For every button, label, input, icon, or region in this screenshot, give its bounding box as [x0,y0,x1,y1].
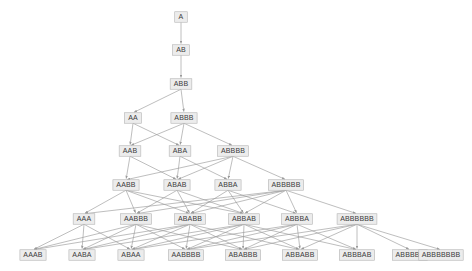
graph-edge [181,89,184,111]
graph-node[interactable]: ABBBA [282,214,313,225]
graph-node-label: ABBBB [221,147,245,154]
graph-node-label: ABAB [167,181,186,188]
graph-edge [127,156,233,179]
graph-node-label: ABBBAB [343,251,372,258]
graph-edge [134,89,181,112]
graph-edge [137,190,286,213]
graph-edge [187,224,297,249]
graph-node-label: A [179,13,184,20]
graph-node-label: ABA [173,147,188,154]
graph-edge [85,190,286,213]
graph-node-label: AAB [123,147,138,154]
graph-edge [126,156,130,178]
graph-edge [357,224,440,249]
graph-node[interactable]: ABBBBB [268,180,303,191]
graph-canvas: AABABBAAABBBAABABAABBBBAABBABABABBAABBBB… [0,0,472,271]
graph-node[interactable]: ABBABB [282,250,317,261]
graph-node[interactable]: AABBB [121,214,152,225]
graph-edge [82,224,84,248]
graph-node[interactable]: AABBBB [168,250,203,261]
graph-edge [132,224,190,249]
graph-node-label: AAA [77,215,92,222]
graph-node[interactable]: ABBB [171,113,197,124]
graph-node[interactable]: AABB [113,180,139,191]
graph-node[interactable]: AAA [73,214,95,225]
graph-node-label: ABBB [174,114,193,121]
graph-node[interactable]: AA [124,113,141,124]
graph-node[interactable]: ABAB [164,180,190,191]
graph-node[interactable]: ABBAB [229,214,260,225]
graph-edge [228,156,233,178]
graph-node-label: AABBBB [172,251,201,258]
graph-edge [297,224,356,249]
graph-edge [184,123,232,145]
graph-edge [286,190,356,213]
graph-edge [83,224,190,249]
graph-edge [131,224,136,248]
graph-node[interactable]: ABBBB [218,146,249,157]
graph-node-label: AA [128,114,138,121]
graph-node[interactable]: AB [172,45,189,56]
graph-node-label: ABAA [121,251,140,258]
graph-edge [126,190,136,212]
graph-node-label: ABBABB [286,251,315,258]
graph-node[interactable]: AABA [69,250,95,261]
graph-edge [34,224,136,249]
graph-node-label: ABBA [218,181,237,188]
graph-node-label: ABBBBBB [340,215,374,222]
graph-node[interactable]: ABABB [175,214,206,225]
graph-node-label: AB [176,46,186,53]
graph-edge [301,224,357,249]
graph-node-label: ABBBA [285,215,309,222]
graph-node[interactable]: A [175,12,188,23]
graph-node-label: AABBB [124,215,148,222]
graph-node[interactable]: ABB [170,79,192,90]
graph-edge [131,123,184,145]
graph-node-label: ABABB [178,215,202,222]
graph-edge [130,123,133,144]
graph-node[interactable]: AAAB [20,250,46,261]
graph-edge [177,156,180,178]
dag-diagram: AABABBAAABBBAABABAABBBBAABBABABABBAABBBB… [0,0,472,271]
graph-node-label: AABA [72,251,91,258]
graph-node[interactable]: ABAA [118,250,144,261]
graph-edge [357,224,409,249]
graph-node[interactable]: ABBBBBBB [419,250,463,261]
graph-node-label: ABB [174,80,189,87]
graph-node[interactable]: ABA [169,146,191,157]
graph-edge [190,224,299,249]
graph-edge [180,123,184,144]
graph-node-label: ABBBBB [272,181,301,188]
graph-edge [233,156,285,179]
graph-node-label: AABB [116,181,135,188]
graph-node[interactable]: ABABBB [225,250,260,261]
graph-edge [130,156,176,179]
graph-node[interactable]: ABBBBBB [337,214,377,225]
nodes-layer: AABABBAAABBBAABABAABBBBAABBABABABBAABBBB… [20,12,463,261]
graph-edge [286,190,296,212]
graph-node-label: ABBBBBBB [422,251,461,258]
graph-node-label: ABBAB [232,215,256,222]
graph-node[interactable]: ABBA [215,180,241,191]
graph-node-label: ABABBB [229,251,258,258]
graph-node[interactable]: ABBBAB [339,250,374,261]
graph-node[interactable]: AAB [119,146,141,157]
graph-edge [34,224,190,249]
graph-node-label: AAAB [23,251,42,258]
